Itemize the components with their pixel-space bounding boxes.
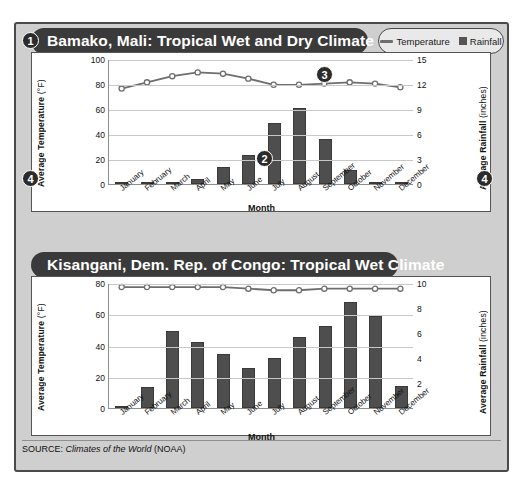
source-note: SOURCE: Climates of the World (NOAA) [22, 444, 186, 454]
square-swatch-icon [459, 37, 467, 45]
temperature-point [296, 288, 301, 293]
y2-tick-label: 15 [417, 56, 426, 65]
temperature-polyline [122, 287, 401, 290]
y-tick-label: 60 [96, 106, 105, 115]
gridline [109, 60, 413, 61]
gridline [109, 378, 413, 379]
y-tick-label: 0 [100, 405, 105, 414]
y-tick-label: 80 [96, 81, 105, 90]
chart-2-y2-axis-title: Average Rainfall (inches) [478, 286, 488, 414]
y-tick-label: 60 [96, 311, 105, 320]
legend-item-temperature: Temperature [380, 36, 449, 47]
gridline [109, 315, 413, 316]
y2-tick-label: 10 [417, 280, 426, 289]
climate-graphs-figure: Bamako, Mali: Tropical Wet and Dry Clima… [0, 0, 523, 482]
temperature-point [170, 284, 175, 289]
chart-2-y2-axis-label: Average Rainfall [478, 342, 488, 414]
y-tick-label: 100 [91, 56, 105, 65]
legend-label-rainfall: Rainfall [470, 36, 502, 47]
y-tick-label: 80 [96, 280, 105, 289]
y2-tick-label: 12 [417, 81, 426, 90]
callout-2: 2 [256, 150, 273, 167]
temperature-point [195, 284, 200, 289]
y2-tick-label: 2 [417, 380, 422, 389]
callout-1: 1 [22, 32, 39, 49]
gridline [109, 110, 413, 111]
gridline [109, 347, 413, 348]
source-prefix: SOURCE: [22, 444, 66, 454]
temperature-point [119, 284, 124, 289]
callout-3: 3 [316, 66, 333, 83]
temperature-point [372, 286, 377, 291]
y2-tick-label: 8 [417, 305, 422, 314]
y-tick-label: 20 [96, 156, 105, 165]
source-divider [22, 440, 501, 441]
gridline [109, 135, 413, 136]
y-tick-label: 40 [96, 131, 105, 140]
temperature-point [220, 284, 225, 289]
y2-tick-label: 4 [417, 355, 422, 364]
chart-2-y-axis-label: Average Temperature [36, 318, 46, 411]
y-tick-label: 0 [100, 181, 105, 190]
temperature-point [119, 86, 124, 91]
chart-1-y-axis-unit: (°F) [36, 79, 46, 94]
gridline [109, 85, 413, 86]
temperature-point [195, 70, 200, 75]
temperature-point [347, 286, 352, 291]
legend-item-rainfall: Rainfall [459, 36, 502, 47]
y2-tick-label: 3 [417, 156, 422, 165]
callout-4-left: 4 [22, 170, 39, 187]
y2-tick-label: 0 [417, 181, 422, 190]
chart-1-y2-axis-unit: (inches) [478, 86, 488, 118]
source-suffix: (NOAA) [152, 444, 186, 454]
chart-2-plot-area: 020406080246810 [108, 284, 413, 409]
source-title: Climates of the World [66, 444, 152, 454]
legend: Temperature Rainfall [378, 28, 504, 54]
chart-2-title: Kisangani, Dem. Rep. of Congo: Tropical … [31, 252, 398, 278]
temperature-point [144, 284, 149, 289]
temperature-polyline [122, 72, 401, 88]
temperature-point [398, 286, 403, 291]
temperature-point [170, 74, 175, 79]
callout-4-right: 4 [476, 170, 493, 187]
line-icon [380, 40, 393, 43]
temperature-point [271, 288, 276, 293]
chart-1-title: Bamako, Mali: Tropical Wet and Dry Clima… [31, 28, 368, 54]
chart-2-y-axis-unit: (°F) [36, 303, 46, 318]
gridline [109, 284, 413, 285]
chart-1-month-labels: JanuaryFebruaryMarchAprilMayJuneJulyAugu… [108, 186, 413, 232]
y2-tick-label: 6 [417, 131, 422, 140]
chart-2-y-axis-title: Average Temperature (°F) [36, 286, 46, 411]
temperature-point [220, 71, 225, 76]
y-tick-label: 40 [96, 343, 105, 352]
chart-1-y-axis-title: Average Temperature (°F) [36, 62, 46, 187]
chart-2-y2-axis-unit: (inches) [478, 310, 488, 342]
y2-tick-label: 6 [417, 330, 422, 339]
y2-tick-label: 9 [417, 106, 422, 115]
legend-label-temperature: Temperature [396, 36, 449, 47]
y-tick-label: 20 [96, 374, 105, 383]
temperature-point [322, 286, 327, 291]
temperature-point [246, 76, 251, 81]
temperature-point [246, 286, 251, 291]
